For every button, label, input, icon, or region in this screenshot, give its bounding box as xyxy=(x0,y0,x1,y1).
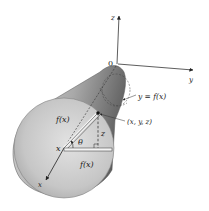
origin-label: 0 xyxy=(108,59,113,68)
curve-label: y = f(x) xyxy=(137,92,166,101)
z-axis xyxy=(117,16,119,64)
z-axis-label: z xyxy=(110,14,115,22)
radius-horizontal xyxy=(64,148,112,151)
slant-radius-label: f(x) xyxy=(55,115,70,124)
figure-canvas: z 0 y x y = f(x) (x, y, z) f(x) f(x) θ z… xyxy=(0,0,209,211)
theta-label: θ xyxy=(78,138,83,147)
position-x-label: x xyxy=(56,144,61,153)
y-axis-label: y xyxy=(188,76,194,84)
z-height-label: z xyxy=(100,129,105,138)
solid-of-revolution-figure: z 0 y x y = f(x) (x, y, z) f(x) f(x) θ z… xyxy=(0,0,209,211)
point-xyz xyxy=(96,111,100,115)
point-label: (x, y, z) xyxy=(127,118,152,126)
y-axis xyxy=(118,64,193,70)
horizontal-radius-label: f(x) xyxy=(79,160,94,169)
x-axis-label: x xyxy=(38,181,42,189)
curve-leader-line xyxy=(123,95,136,100)
